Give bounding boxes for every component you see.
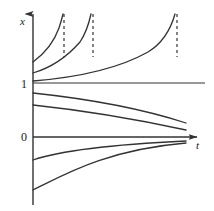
tick-label-one: 1 (21, 78, 27, 90)
blowup-curve-3 (33, 14, 175, 81)
rising-curve-2 (33, 143, 186, 190)
blowup-curve-2 (33, 14, 91, 73)
tick-label-zero: 0 (21, 131, 27, 143)
plot-canvas (0, 0, 214, 211)
decaying-curve-2 (33, 105, 186, 130)
t-axis-label: t (196, 140, 199, 151)
x-axis-label: x (20, 16, 25, 27)
figure-container: x t 1 0 (0, 0, 214, 211)
blowup-curve-1 (33, 14, 63, 62)
